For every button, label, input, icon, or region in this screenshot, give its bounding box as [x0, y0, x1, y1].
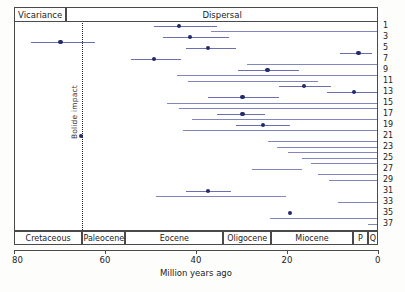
x-tick-label-40: 40: [191, 255, 202, 265]
x-tick-40: [196, 250, 197, 254]
range-bar: [188, 81, 318, 82]
range-bar: [211, 31, 378, 32]
divergence-time-figure: Vicariance Dispersal Bolide impact 13579…: [0, 0, 405, 292]
x-tick-label-80: 80: [12, 255, 23, 265]
row-label-1: 1: [383, 22, 388, 30]
point-estimate-marker: [240, 112, 244, 116]
range-bar: [177, 75, 378, 76]
x-tick-label-20: 20: [282, 255, 293, 265]
epoch-p: P: [353, 231, 368, 245]
row-label-5: 5: [383, 44, 388, 52]
range-bar: [156, 196, 286, 197]
row-label-15: 15: [383, 99, 393, 107]
epoch-oligocene: Oligocene: [223, 231, 271, 245]
row-label-19: 19: [383, 121, 393, 129]
range-bar: [163, 37, 229, 39]
header-dispersal: Dispersal: [66, 7, 378, 22]
point-estimate-marker: [288, 211, 292, 215]
range-bar: [311, 163, 378, 164]
x-tick-label-60: 60: [100, 255, 111, 265]
header-vicariance: Vicariance: [14, 7, 66, 22]
x-tick-label-0: 0: [375, 255, 380, 265]
range-bar: [368, 224, 378, 225]
point-estimate-marker: [302, 84, 306, 88]
point-estimate-marker: [356, 51, 360, 55]
range-bar: [277, 147, 378, 148]
bolide-impact-line: [82, 23, 83, 230]
row-label-33: 33: [383, 198, 393, 206]
range-bar: [154, 26, 218, 28]
x-tick-20: [287, 250, 288, 254]
header-dispersal-label: Dispersal: [202, 10, 241, 20]
range-bar: [338, 202, 378, 203]
range-bar: [288, 152, 378, 153]
row-label-3: 3: [383, 33, 388, 41]
header-vicariance-label: Vicariance: [18, 10, 62, 20]
range-bar: [31, 42, 95, 44]
range-bar: [318, 174, 378, 175]
row-label-7: 7: [383, 55, 388, 63]
x-axis-title: Million years ago: [160, 268, 232, 278]
row-label-31: 31: [383, 187, 393, 195]
range-bar: [302, 158, 378, 159]
x-tick-0: [378, 250, 379, 254]
range-bar: [270, 218, 378, 219]
row-label-9: 9: [383, 66, 388, 74]
range-bar: [131, 59, 181, 61]
row-label-21: 21: [383, 132, 393, 140]
epoch-cretaceous: Cretaceous: [14, 231, 82, 245]
point-estimate-marker: [206, 46, 210, 50]
point-estimate-marker: [265, 68, 269, 72]
x-tick-80: [14, 250, 15, 254]
row-label-35: 35: [383, 209, 393, 217]
range-bar: [268, 141, 378, 142]
row-label-29: 29: [383, 176, 393, 184]
range-bar: [167, 103, 378, 104]
point-estimate-marker: [240, 95, 244, 99]
bolide-impact-label: Bolide impact: [70, 85, 79, 139]
point-estimate-marker: [188, 35, 192, 39]
range-bar: [252, 169, 302, 170]
range-bar: [247, 64, 378, 65]
range-bar: [179, 108, 378, 109]
point-estimate-marker: [152, 57, 156, 61]
row-label-13: 13: [383, 88, 393, 96]
plot-area: [14, 22, 378, 231]
range-bar: [329, 180, 378, 181]
epoch-paleocene: Paleocene: [82, 231, 125, 245]
range-bar: [183, 130, 378, 131]
row-label-27: 27: [383, 165, 393, 173]
point-estimate-marker: [261, 123, 265, 127]
row-label-17: 17: [383, 110, 393, 118]
epoch-miocene: Miocene: [271, 231, 353, 245]
row-label-11: 11: [383, 77, 393, 85]
epoch-q: Q: [368, 231, 378, 245]
point-estimate-marker: [352, 90, 356, 94]
point-estimate-marker: [206, 189, 210, 193]
point-estimate-marker: [177, 24, 181, 28]
point-estimate-marker: [58, 40, 62, 44]
range-bar: [186, 48, 236, 50]
row-label-25: 25: [383, 154, 393, 162]
row-label-23: 23: [383, 143, 393, 151]
x-tick-60: [105, 250, 106, 254]
range-bar: [192, 119, 378, 120]
row-label-37: 37: [383, 220, 393, 228]
epoch-eocene: Eocene: [125, 231, 223, 245]
